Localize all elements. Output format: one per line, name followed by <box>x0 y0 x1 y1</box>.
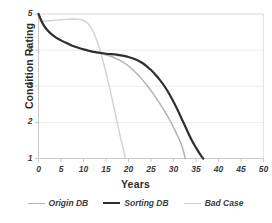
x-tick-label: 25 <box>143 164 159 174</box>
x-tick-label: 30 <box>166 164 182 174</box>
legend-item[interactable]: Origin DB <box>28 198 89 208</box>
legend-label: Origin DB <box>49 198 89 208</box>
x-tick-label: 35 <box>188 164 204 174</box>
x-axis-title: Years <box>0 178 271 190</box>
y-tick-label: 2 <box>19 116 33 126</box>
x-tick-label: 5 <box>53 164 69 174</box>
x-tick-label: 10 <box>76 164 92 174</box>
chart-legend: Origin DBSorting DBBad Case <box>0 198 271 208</box>
y-tick-label: 3 <box>19 80 33 90</box>
legend-swatch-icon <box>184 203 201 204</box>
x-tick-label: 20 <box>121 164 137 174</box>
x-tick-label: 45 <box>233 164 249 174</box>
x-tick-label: 40 <box>211 164 227 174</box>
legend-label: Bad Case <box>205 198 244 208</box>
x-tick-label: 0 <box>31 164 47 174</box>
y-tick-label: 1 <box>19 153 33 163</box>
legend-label: Sorting DB <box>124 198 168 208</box>
gridlines <box>39 14 264 122</box>
x-tick-label: 15 <box>98 164 114 174</box>
x-tick-label: 50 <box>256 164 272 174</box>
legend-item[interactable]: Sorting DB <box>103 198 168 208</box>
y-tick-label: 4 <box>19 44 33 54</box>
chart-figure: Condition Rating Years 54321 05101520253… <box>0 0 271 223</box>
legend-item[interactable]: Bad Case <box>184 198 244 208</box>
series-line-bad-case <box>39 19 126 158</box>
legend-swatch-icon <box>28 203 45 204</box>
legend-swatch-icon <box>103 202 120 204</box>
y-tick-label: 5 <box>19 8 33 18</box>
